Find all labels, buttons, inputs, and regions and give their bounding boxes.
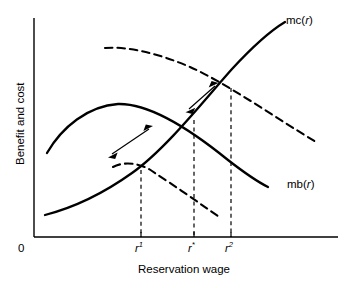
- mb-label-prefix: mb(: [287, 178, 307, 190]
- lower-shift-arrow: [108, 125, 153, 159]
- x-axis-label: Reservation wage: [104, 264, 264, 276]
- lower-dashed-benefit-curve: [113, 164, 218, 216]
- x-tick-r-star-superscript: *: [192, 240, 195, 249]
- upper-shift-arrow: [186, 81, 219, 114]
- mb-curve-label: mb(r): [287, 179, 315, 191]
- mb-label-suffix: ): [311, 178, 315, 190]
- y-axis-label: Benefit and cost: [15, 72, 27, 176]
- mc-label-prefix: mc(: [286, 14, 305, 26]
- x-tick-r1-superscript: 1: [139, 240, 143, 249]
- economics-figure: 0 Benefit and cost Reservation wage r1 r…: [0, 0, 348, 288]
- origin-label: 0: [18, 243, 24, 255]
- x-tick-r2-superscript: 2: [229, 240, 233, 249]
- x-tick-label-r-star: r*: [188, 243, 195, 254]
- curves-group: [45, 22, 316, 216]
- tick-marks-group: [141, 232, 231, 237]
- x-tick-label-r2: r2: [225, 243, 233, 254]
- mb-curve: [47, 104, 268, 187]
- mc-label-suffix: ): [309, 14, 313, 26]
- x-tick-label-r1: r1: [135, 243, 143, 254]
- mc-curve-label: mc(r): [286, 15, 313, 27]
- chart-canvas: [0, 0, 348, 288]
